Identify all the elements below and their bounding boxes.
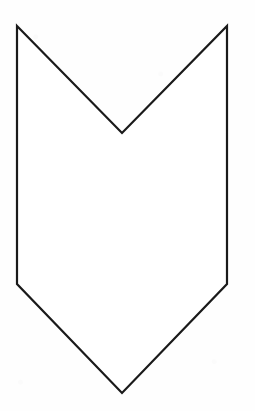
drawing-canvas	[0, 0, 255, 411]
chevron-banner-outline-shape	[17, 26, 227, 393]
chevron-banner-figure	[0, 0, 255, 411]
